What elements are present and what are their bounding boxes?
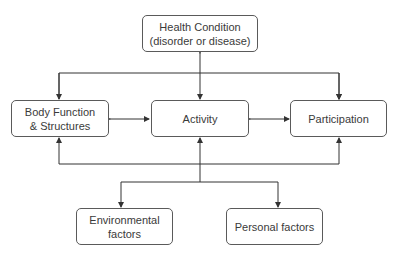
environmental-factors-node: Environmental factors xyxy=(76,208,173,245)
body-function-label: Body Function xyxy=(25,105,95,119)
participation-node: Participation xyxy=(290,100,387,137)
health-condition-label: Health Condition xyxy=(159,20,240,34)
body-structures-label: & Structures xyxy=(30,119,91,133)
health-condition-node: Health Condition (disorder or disease) xyxy=(142,15,258,52)
personal-factors-label: Personal factors xyxy=(235,220,314,234)
participation-label: Participation xyxy=(308,112,369,126)
environmental-sublabel: factors xyxy=(108,227,141,241)
activity-node: Activity xyxy=(151,100,249,137)
health-condition-sublabel: (disorder or disease) xyxy=(150,34,251,48)
activity-label: Activity xyxy=(183,112,218,126)
environmental-label: Environmental xyxy=(89,213,159,227)
personal-factors-node: Personal factors xyxy=(226,208,323,245)
body-function-node: Body Function & Structures xyxy=(11,100,109,137)
